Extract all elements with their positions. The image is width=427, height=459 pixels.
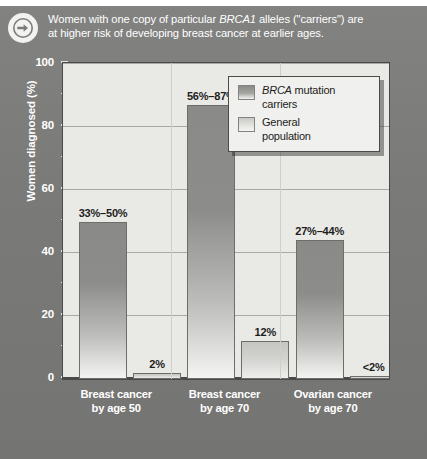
caption-gene-name: BRCA1	[219, 13, 256, 25]
caption: Women with one copy of particular BRCA1 …	[8, 12, 420, 52]
x-category-label: Breast cancerby age 50	[62, 388, 170, 415]
x-category-line: Ovarian cancer	[279, 388, 387, 402]
gridline	[63, 63, 389, 64]
bar	[241, 341, 289, 379]
y-tick-label: 40	[16, 245, 54, 257]
x-category-line: Breast cancer	[62, 388, 170, 402]
bar-value-label: 33%–50%	[79, 207, 128, 219]
legend-swatch	[238, 85, 255, 100]
legend-swatch	[238, 117, 255, 132]
legend-item[interactable]: Generalpopulation	[238, 116, 371, 143]
bar	[296, 240, 344, 379]
bar	[133, 373, 181, 379]
legend: BRCA mutationcarriersGeneralpopulation	[228, 76, 380, 152]
x-category-line: by age 70	[279, 402, 387, 416]
bar	[79, 222, 127, 380]
y-tick-label: 60	[16, 182, 54, 194]
x-category-line: by age 50	[62, 402, 170, 416]
bar-value-label: 27%–44%	[295, 225, 344, 237]
y-axis-label: Women diagnosed (%)	[25, 56, 37, 226]
bar	[350, 376, 389, 379]
caption-text: Women with one copy of particular BRCA1 …	[48, 12, 363, 41]
figure-root: Women with one copy of particular BRCA1 …	[0, 0, 427, 459]
arrow-right-circle-icon	[8, 13, 38, 43]
x-category-label: Ovarian cancerby age 70	[279, 388, 387, 415]
caption-line2: at higher risk of developing breast canc…	[48, 27, 324, 39]
x-category-line: Breast cancer	[170, 388, 278, 402]
bar-value-label: 12%	[255, 326, 276, 338]
bar-value-label: 2%	[149, 358, 165, 370]
group-separator	[171, 63, 172, 379]
legend-item[interactable]: BRCA mutationcarriers	[238, 84, 371, 111]
bar-value-label: <2%	[363, 361, 385, 373]
y-tick-label: 80	[16, 119, 54, 131]
x-category-label: Breast cancerby age 70	[170, 388, 278, 415]
caption-line1-post: alleles ("carriers") are	[256, 13, 363, 25]
y-tick-label: 0	[16, 371, 54, 383]
caption-line1-pre: Women with one copy of particular	[48, 13, 219, 25]
y-tick-label: 20	[16, 308, 54, 320]
y-tick-label: 100	[16, 56, 54, 68]
legend-gene-name: BRCA	[262, 84, 292, 96]
legend-label: BRCA mutationcarriers	[262, 84, 335, 111]
x-category-line: by age 70	[170, 402, 278, 416]
legend-label: Generalpopulation	[262, 116, 311, 143]
